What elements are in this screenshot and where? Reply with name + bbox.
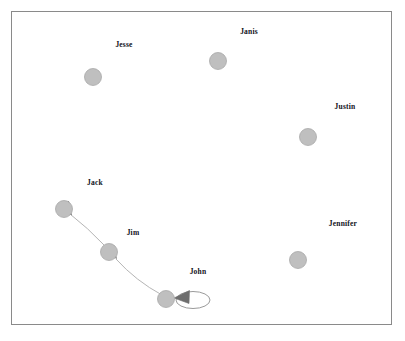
node-john[interactable] xyxy=(158,291,175,308)
edge-layer xyxy=(61,201,210,309)
node-justin[interactable] xyxy=(300,129,317,146)
node-label-john: John xyxy=(190,267,207,276)
graph-diagram-canvas: Jesse Janis Justin Jennifer Jack Jim Joh… xyxy=(0,0,405,341)
node-label-janis: Janis xyxy=(240,27,258,36)
graph-svg xyxy=(0,0,405,341)
node-label-jack: Jack xyxy=(87,178,103,187)
node-jack[interactable] xyxy=(56,201,73,218)
node-label-jennifer: Jennifer xyxy=(329,219,357,228)
edge-john-to-jim-line xyxy=(116,259,162,295)
node-jesse[interactable] xyxy=(85,69,102,86)
edge-jim-to-jack-line xyxy=(70,214,104,245)
node-jennifer[interactable] xyxy=(290,252,307,269)
node-label-justin: Justin xyxy=(335,102,356,111)
node-jim[interactable] xyxy=(101,244,118,261)
node-label-jesse: Jesse xyxy=(115,40,132,49)
node-janis[interactable] xyxy=(210,53,227,70)
node-label-jim: Jim xyxy=(127,228,140,237)
